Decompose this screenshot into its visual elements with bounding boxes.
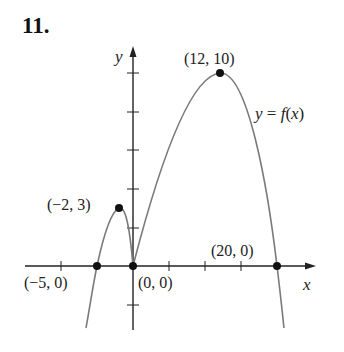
point-m2-3 — [115, 204, 123, 212]
x-axis — [25, 261, 316, 271]
x-axis-arrow-icon — [305, 263, 316, 270]
curve-left-piece — [86, 208, 133, 328]
point-12-10 — [216, 69, 224, 77]
point-20-0 — [273, 262, 281, 270]
y-axis-label: y — [113, 47, 123, 66]
function-label: y = f(x) — [253, 104, 304, 123]
label-12-10: (12, 10) — [184, 50, 235, 68]
y-axis-arrow-icon — [130, 46, 137, 57]
label-20-0: (20, 0) — [211, 242, 254, 260]
x-axis-label: x — [302, 275, 311, 294]
problem-number: 11. — [22, 13, 49, 38]
point-m5-0 — [93, 262, 101, 270]
point-origin — [129, 262, 137, 270]
label-origin: (0, 0) — [138, 274, 173, 292]
label-m5-0: (−5, 0) — [24, 274, 68, 292]
label-m2-3: (−2, 3) — [47, 196, 91, 214]
function-graph: 11. (−5, 0) (−2, 3) (0, 0) (12, 10) (20,… — [0, 0, 344, 352]
